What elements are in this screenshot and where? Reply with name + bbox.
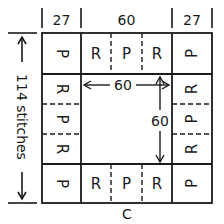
cell-left-1: R [53, 84, 71, 94]
cell-top-3: R [152, 45, 162, 63]
cell-bottom-2: P [122, 175, 131, 193]
center-height-label: 60 [151, 113, 169, 129]
cell-top-right: P [183, 49, 201, 58]
height-label: 114 stitches [14, 74, 30, 160]
cell-right-2: P [183, 114, 201, 123]
cell-top-2: P [122, 45, 131, 63]
cell-bottom-right: P [183, 179, 201, 188]
cell-bottom-left: P [53, 179, 71, 188]
width-label-center: 60 [118, 12, 136, 28]
width-label-right: 27 [183, 12, 201, 28]
cell-left-3: R [53, 144, 71, 154]
bottom-label: C [122, 206, 132, 222]
cell-right-3: R [183, 144, 201, 154]
cell-bottom-1: R [91, 175, 101, 193]
cell-bottom-3: R [152, 175, 162, 193]
center-width-label: 60 [114, 77, 132, 93]
cell-top-1: R [91, 45, 101, 63]
blanket-diagram: 27 60 27 114 stitches P R P R P R P R R [0, 0, 224, 224]
cell-right-1: R [183, 84, 201, 94]
width-label-left: 27 [53, 12, 71, 28]
cell-left-2: P [53, 114, 71, 123]
cell-top-left: P [53, 49, 71, 58]
